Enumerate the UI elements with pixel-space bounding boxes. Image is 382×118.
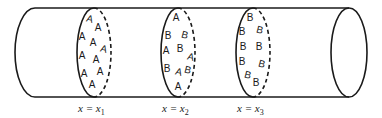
- cross-section-2: ABBABABABAx = x2: [161, 8, 196, 117]
- particle-a: A: [95, 22, 102, 33]
- particle-b: B: [255, 23, 265, 35]
- particle-b: B: [239, 26, 246, 37]
- particle-b: B: [253, 77, 260, 88]
- particle-b: B: [247, 12, 254, 23]
- section-label: x = x1: [77, 102, 105, 117]
- cross-section-3: BBBBBBBBBx = x3: [236, 8, 270, 117]
- particle-a: A: [81, 68, 88, 79]
- particle-b: B: [256, 41, 263, 52]
- cross-section-1: AAAAAAAAAAx = x1: [77, 8, 111, 117]
- particle-b: B: [164, 63, 171, 74]
- particle-a: A: [90, 37, 97, 48]
- section-label: x = x3: [236, 102, 264, 117]
- particle-a: A: [85, 12, 95, 24]
- particle-a: A: [99, 42, 109, 54]
- particle-a: A: [93, 54, 100, 65]
- particle-b: B: [165, 30, 172, 41]
- cylinder-right-cap: [331, 8, 367, 97]
- particle-a: A: [163, 45, 170, 56]
- particle-b: B: [183, 63, 193, 75]
- particle-a: A: [174, 65, 184, 77]
- particle-a: A: [79, 50, 86, 61]
- particle-a: A: [79, 31, 86, 42]
- particle-a: A: [175, 81, 182, 92]
- particle-b: B: [177, 43, 184, 54]
- cylinder-left-cap: [15, 8, 35, 97]
- section-label: x = x2: [161, 102, 189, 117]
- cross-sections: AAAAAAAAAAx = x1ABBABABABAx = x2BBBBBBBB…: [77, 8, 270, 117]
- particle-a: A: [173, 12, 180, 23]
- diffusion-cylinder-diagram: AAAAAAAAAAx = x1ABBABABABAx = x2BBBBBBBB…: [0, 0, 382, 118]
- particle-b: B: [243, 68, 253, 80]
- particle-b: B: [257, 57, 267, 69]
- particle-b: B: [240, 41, 247, 52]
- particle-a: A: [89, 79, 96, 90]
- particle-b: B: [180, 28, 190, 40]
- particle-b: B: [239, 56, 246, 67]
- particle-a: A: [97, 66, 104, 77]
